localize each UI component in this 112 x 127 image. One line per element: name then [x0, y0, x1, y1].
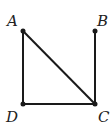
geometry-figure: A B C D [0, 0, 112, 127]
label-A: A [5, 12, 18, 30]
label-D: D [5, 108, 18, 126]
segment-AC [23, 31, 95, 104]
point-C [93, 102, 98, 107]
point-D [21, 102, 26, 107]
point-A [21, 29, 26, 34]
label-C: C [98, 108, 110, 126]
label-B: B [96, 12, 108, 30]
